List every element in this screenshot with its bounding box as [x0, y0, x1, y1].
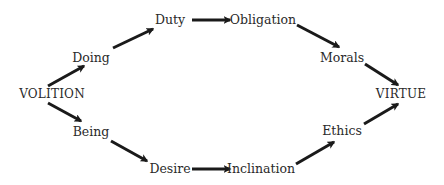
- arrow-inclination-to-ethics: [296, 142, 334, 164]
- node-inclination: Inclination: [227, 162, 295, 176]
- arrow-ethics-to-virtue: [364, 104, 398, 124]
- volition-virtue-diagram: VOLITION Doing Duty Obligation Morals VI…: [0, 0, 444, 185]
- arrow-obligation-to-morals: [297, 25, 339, 47]
- node-obligation: Obligation: [230, 13, 296, 27]
- node-being: Being: [73, 125, 110, 139]
- node-volition: VOLITION: [19, 87, 85, 101]
- arrow-volition-to-being: [48, 103, 81, 121]
- node-ethics: Ethics: [322, 124, 362, 138]
- node-morals: Morals: [320, 51, 364, 65]
- arrow-morals-to-virtue: [365, 64, 398, 85]
- arrow-doing-to-duty: [113, 29, 153, 48]
- node-desire: Desire: [149, 162, 190, 176]
- node-duty: Duty: [155, 13, 185, 27]
- node-virtue: VIRTUE: [376, 87, 426, 101]
- arrow-being-to-desire: [111, 141, 147, 161]
- arrow-volition-to-doing: [48, 66, 84, 86]
- node-doing: Doing: [72, 51, 110, 65]
